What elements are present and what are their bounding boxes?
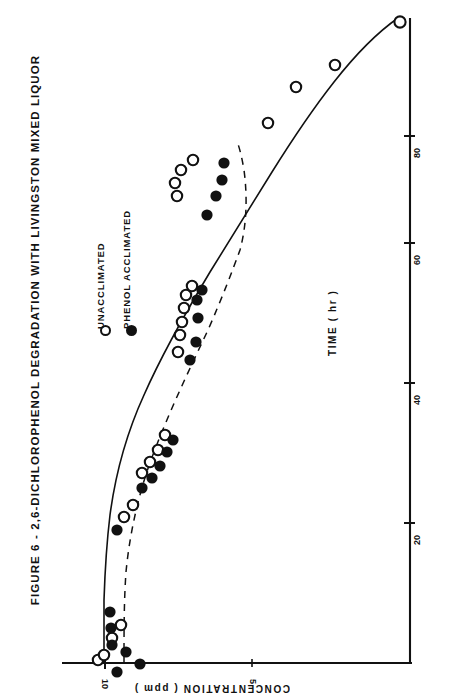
data-point-filled xyxy=(201,209,212,220)
axis-lines xyxy=(62,18,412,663)
time-tick-label-40: 40 xyxy=(412,395,422,405)
data-point-filled xyxy=(167,434,178,445)
chart-svg xyxy=(0,0,464,697)
data-point-filled xyxy=(105,622,116,633)
data-point-open xyxy=(175,330,185,340)
data-point-filled xyxy=(111,524,122,535)
data-point-open xyxy=(187,281,197,291)
data-point-open xyxy=(188,155,198,165)
data-point-open xyxy=(263,118,273,128)
data-point-open xyxy=(170,178,180,188)
data-point-filled xyxy=(136,482,147,493)
data-point-filled xyxy=(210,190,221,201)
data-point-open xyxy=(172,191,182,201)
data-point-open xyxy=(137,468,147,478)
data-point-filled xyxy=(191,294,202,305)
data-point-open xyxy=(119,512,129,522)
data-point-filled xyxy=(106,639,117,650)
time-tick-label-20: 20 xyxy=(412,535,422,545)
data-point-filled xyxy=(146,472,157,483)
data-point-filled xyxy=(216,174,227,185)
data-point-open xyxy=(173,347,183,357)
data-point-filled xyxy=(111,666,122,677)
series-unacclimated-points xyxy=(93,16,406,665)
concentration-axis-title: CONCENTRATION ( ppm ) xyxy=(133,683,290,694)
data-point-open xyxy=(291,82,301,92)
data-point-open xyxy=(176,165,186,175)
data-point-open xyxy=(177,317,187,327)
data-point-filled xyxy=(120,646,131,657)
data-point-filled xyxy=(134,658,145,669)
legend-label-phenol-acclimated: PHENOL ACCLIMATED xyxy=(121,210,132,329)
data-point-open xyxy=(179,303,189,313)
data-point-open xyxy=(330,60,340,70)
data-point-filled xyxy=(190,336,201,347)
data-point-filled xyxy=(192,312,203,323)
data-point-open xyxy=(145,457,155,467)
data-point-filled xyxy=(161,446,172,457)
data-point-filled xyxy=(218,157,229,168)
data-point-filled xyxy=(196,284,207,295)
data-point-open xyxy=(394,16,405,27)
data-point-filled xyxy=(184,354,195,365)
conc-tick-label-10: 10 xyxy=(100,679,110,689)
unacclimated-fit-curve xyxy=(104,18,398,663)
data-point-open xyxy=(99,650,109,660)
data-point-filled xyxy=(154,460,165,471)
plot-area xyxy=(0,0,464,697)
data-point-open xyxy=(153,445,163,455)
time-tick-label-60: 60 xyxy=(412,255,422,265)
data-point-open xyxy=(128,500,138,510)
data-point-filled xyxy=(104,606,115,617)
time-axis-title: TIME ( hr ) xyxy=(327,290,338,356)
legend-label-unacclimated: UNACCLIMATED xyxy=(95,242,106,329)
time-tick-label-80: 80 xyxy=(412,148,422,158)
data-point-open xyxy=(116,620,126,630)
phenol-acclimated-fit-curve xyxy=(124,144,246,663)
